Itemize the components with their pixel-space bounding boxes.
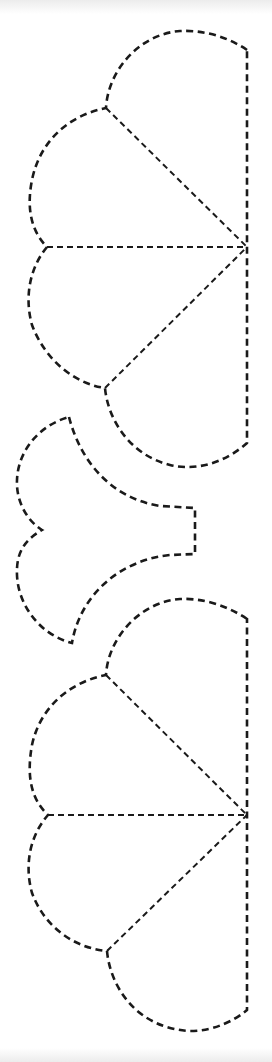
upper-fold-line-bottom — [105, 247, 247, 388]
lower-fan-piece — [29, 599, 247, 1031]
upper-fan-outline — [29, 31, 247, 467]
lower-fold-line-top — [106, 675, 247, 815]
upper-fold-line-top — [106, 108, 247, 247]
middle-tab-outline — [17, 417, 195, 643]
template-canvas — [0, 0, 272, 1062]
middle-tab-piece — [17, 417, 195, 643]
upper-fan-piece — [29, 31, 247, 467]
lower-fold-line-bottom — [107, 815, 247, 951]
